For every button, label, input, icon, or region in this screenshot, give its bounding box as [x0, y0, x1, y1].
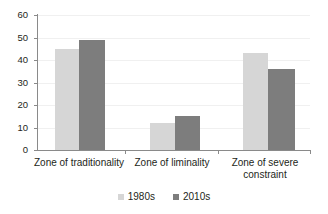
y-tick-label-40: 40 — [17, 55, 28, 65]
y-tick-mark-40: 40 — [34, 60, 38, 61]
x-tick-mark-3 — [310, 150, 311, 154]
y-tick-label-20: 20 — [17, 100, 28, 110]
bar-severe-constraint-1980s — [243, 53, 268, 150]
bar-chart: 60 50 40 30 20 10 0 Zon — [0, 0, 328, 214]
legend-label-1980s: 1980s — [128, 192, 155, 202]
legend-item-2010s: 2010s — [173, 192, 210, 202]
y-tick-label-10: 10 — [17, 123, 28, 133]
y-tick-mark-0: 0 — [34, 150, 38, 151]
gridline-50 — [38, 38, 310, 39]
legend-item-1980s: 1980s — [118, 192, 155, 202]
category-label-liminality: Zone of liminality — [127, 157, 217, 169]
bar-severe-constraint-2010s — [268, 69, 295, 150]
bar-traditionality-2010s — [79, 40, 105, 150]
y-tick-mark-50: 50 — [34, 38, 38, 39]
legend-swatch-icon-1980s — [118, 194, 124, 200]
category-label-line-2: constraint — [220, 169, 310, 181]
plot-area: 60 50 40 30 20 10 0 — [38, 15, 310, 150]
y-tick-label-60: 60 — [17, 10, 28, 20]
legend-swatch-icon-2010s — [173, 194, 179, 200]
y-tick-mark-60: 60 — [34, 15, 38, 16]
y-tick-mark-10: 10 — [34, 128, 38, 129]
category-label-severe-constraint: Zone of severe constraint — [220, 157, 310, 180]
y-tick-mark-20: 20 — [34, 105, 38, 106]
y-tick-label-50: 50 — [17, 33, 28, 43]
x-axis-line — [37, 150, 311, 151]
y-tick-label-0: 0 — [23, 145, 28, 155]
category-label-line-1: Zone of liminality — [127, 157, 217, 169]
category-label-traditionality: Zone of traditionality — [33, 157, 125, 169]
chart-legend: 1980s 2010s — [0, 192, 328, 202]
gridline-60 — [38, 15, 310, 16]
category-label-line-1: Zone of traditionality — [33, 157, 125, 169]
bar-liminality-2010s — [175, 116, 200, 150]
category-label-line-1: Zone of severe — [220, 157, 310, 169]
x-tick-mark-1 — [125, 150, 126, 154]
legend-label-2010s: 2010s — [183, 192, 210, 202]
bar-liminality-1980s — [150, 123, 175, 150]
bar-traditionality-1980s — [55, 49, 79, 150]
x-tick-mark-2 — [218, 150, 219, 154]
y-tick-mark-30: 30 — [34, 83, 38, 84]
y-tick-label-30: 30 — [17, 78, 28, 88]
